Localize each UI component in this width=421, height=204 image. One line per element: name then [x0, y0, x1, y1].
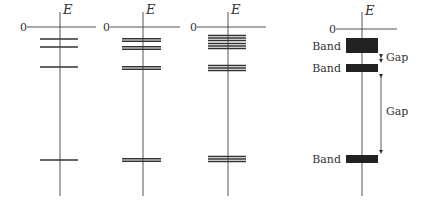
- band-label: Band: [312, 62, 341, 75]
- diagram-1-zero-label: 0: [20, 21, 27, 34]
- diagram-3-zero-label: 0: [190, 21, 197, 34]
- gap-label: Gap: [386, 105, 408, 118]
- energy-band: [346, 155, 378, 163]
- band-label: Band: [312, 40, 341, 53]
- diagram-1-axis-label: E: [62, 2, 73, 17]
- band-label: Band: [312, 153, 341, 166]
- diagram-2-axis-label: E: [145, 2, 156, 17]
- band-diagram-zero-label: 0: [329, 23, 336, 36]
- diagram-2-zero-label: 0: [103, 21, 110, 34]
- diagram-3-axis-label: E: [230, 2, 241, 17]
- energy-level-diagram: 0E0E0E0EBandBandBandGapGap: [0, 0, 421, 204]
- gap-label: Gap: [386, 51, 408, 64]
- band-diagram-axis-label: E: [364, 3, 375, 18]
- energy-band: [346, 64, 378, 72]
- energy-band: [346, 38, 378, 53]
